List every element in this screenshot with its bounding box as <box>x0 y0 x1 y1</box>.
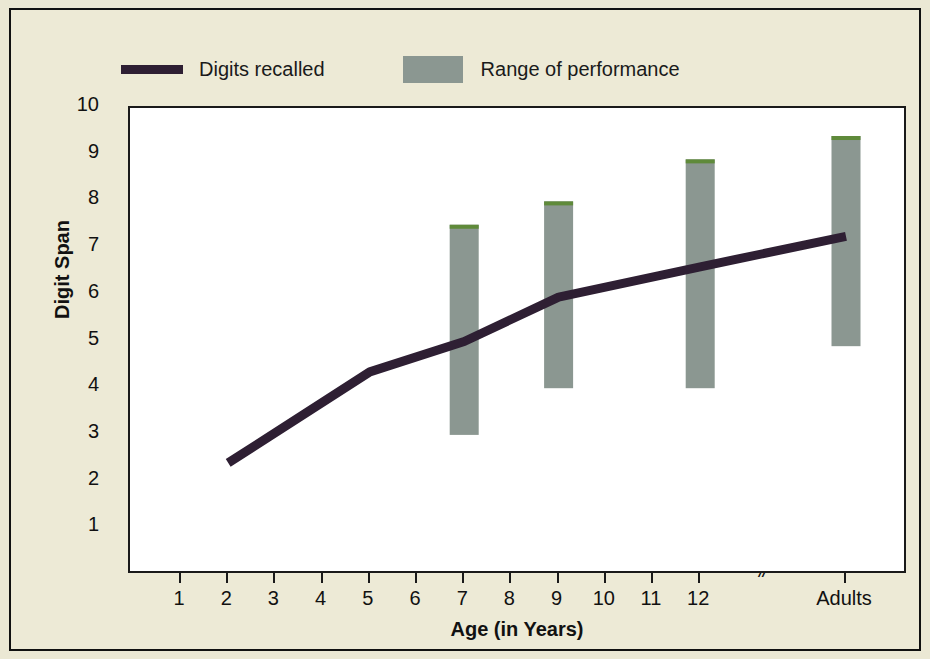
y-tick-label: 6 <box>53 280 99 303</box>
range-bar-cap <box>450 225 479 229</box>
range-bar <box>450 225 479 435</box>
plot-canvas <box>130 108 908 575</box>
y-tick-label: 1 <box>53 513 99 536</box>
range-bars <box>450 136 861 435</box>
y-tick-label: 5 <box>53 327 99 350</box>
legend-label-digits-recalled: Digits recalled <box>199 58 325 81</box>
y-tick-label: 8 <box>53 186 99 209</box>
legend-label-range-of-performance: Range of performance <box>481 58 680 81</box>
range-bar <box>686 159 715 388</box>
x-axis-title: Age (in Years) <box>128 618 906 641</box>
legend-item-digits-recalled: Digits recalled <box>121 58 325 81</box>
range-bar-cap <box>686 159 715 163</box>
legend: Digits recalled Range of performance <box>121 52 680 86</box>
range-bar-cap <box>544 201 573 205</box>
y-tick-label: 4 <box>53 373 99 396</box>
y-tick-label: 10 <box>53 93 99 116</box>
figure: Digits recalled Range of performance Dig… <box>0 0 930 659</box>
y-axis-title: Digit Span <box>51 190 74 350</box>
legend-line-swatch-icon <box>121 65 183 74</box>
y-tick-label: 3 <box>53 420 99 443</box>
y-tick-label: 2 <box>53 467 99 490</box>
x-tick-label: Adults <box>799 587 889 610</box>
range-bar-cap <box>832 136 861 140</box>
legend-box-swatch-icon <box>403 56 463 83</box>
y-tick-label: 7 <box>53 233 99 256</box>
legend-item-range-of-performance: Range of performance <box>403 56 680 83</box>
y-tick-label: 9 <box>53 140 99 163</box>
plot-area <box>128 106 906 573</box>
figure-panel: Digits recalled Range of performance Dig… <box>9 8 921 651</box>
x-tick-label: 12 <box>653 587 743 610</box>
digits-recalled-line <box>228 236 846 463</box>
line-path <box>228 236 846 463</box>
